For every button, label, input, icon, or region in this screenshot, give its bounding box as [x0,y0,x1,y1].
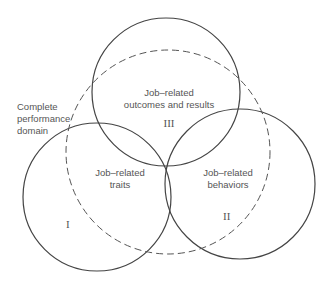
circle-traits [23,123,171,271]
label-line: Job–related [85,167,155,179]
label-line: traits [85,179,155,191]
label-line: behaviors [193,179,263,191]
numeral-II: II [223,210,230,222]
label-line: Job–related [114,87,224,99]
label-line: Job–related [193,167,263,179]
numeral-III: III [114,117,224,129]
outcomes-label: Job–related outcomes and results III [114,87,224,129]
behaviors-label: Job–related behaviors [193,167,263,191]
venn-diagram [0,0,330,283]
numeral-I: I [66,218,70,230]
traits-label: Job–related traits [85,167,155,191]
label-line: performance [17,113,70,125]
label-line: domain [17,125,70,137]
label-line: outcomes and results [114,99,224,111]
label-line: Complete [17,101,70,113]
performance-domain-label: Complete performance domain [17,101,70,137]
